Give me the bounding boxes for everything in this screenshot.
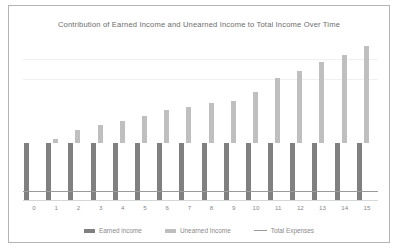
bar-group [356,39,378,201]
bar-group [311,39,333,201]
x-axis-tick-label: 11 [267,204,289,211]
bar-unearned-income [342,55,347,143]
bar-group [23,39,45,201]
bar-group [178,39,200,201]
bar-group [45,39,67,201]
legend-label: Unearned Income [180,227,231,234]
chart-legend: Earned incomeUnearned IncomeTotal Expens… [9,227,389,234]
bar-group [289,39,311,201]
bar-group [67,39,89,201]
plot-area [23,39,378,201]
legend-bar-swatch [84,229,95,233]
bar-unearned-income [186,107,191,143]
x-axis-line [23,200,378,201]
bar-unearned-income [364,46,369,143]
total-expenses-line [23,191,378,192]
bar-group [245,39,267,201]
bar-group [267,39,289,201]
bar-unearned-income [253,92,258,143]
x-axis-tick-label: 2 [67,204,89,211]
x-axis-tick-label: 6 [156,204,178,211]
x-axis-tick-label: 0 [23,204,45,211]
chart-title: Contribution of Earned Income and Unearn… [9,20,389,29]
x-axis-tick-label: 8 [201,204,223,211]
bar-group [223,39,245,201]
x-axis-tick-label: 9 [223,204,245,211]
legend-item[interactable]: Unearned Income [165,227,231,234]
bar-unearned-income [120,121,125,143]
bar-unearned-income [209,103,214,144]
bar-unearned-income [98,125,103,144]
legend-label: Earned income [99,227,142,234]
x-axis-tick-label: 3 [90,204,112,211]
bar-unearned-income [297,71,302,143]
bar-group [90,39,112,201]
legend-item[interactable]: Earned income [84,227,142,234]
bar-unearned-income [75,130,80,143]
x-axis-tick-label: 15 [356,204,378,211]
bar-group [112,39,134,201]
bar-unearned-income [275,78,280,143]
x-axis-tick-label: 13 [311,204,333,211]
x-axis-tick-labels: 0123456789101112131415 [23,204,378,216]
bar-group [134,39,156,201]
bar-group [334,39,356,201]
x-axis-tick-label: 7 [178,204,200,211]
bar-group [156,39,178,201]
legend-item[interactable]: Total Expenses [254,227,314,234]
x-axis-tick-label: 10 [245,204,267,211]
x-axis-tick-label: 14 [334,204,356,211]
chart-container: Contribution of Earned Income and Unearn… [8,5,390,243]
bar-unearned-income [53,139,58,144]
x-axis-tick-label: 12 [289,204,311,211]
legend-label: Total Expenses [271,227,314,234]
bar-unearned-income [142,116,147,143]
bar-unearned-income [231,101,236,143]
legend-bar-swatch [165,229,176,233]
bar-series-layer [23,39,378,201]
x-axis-tick-label: 4 [112,204,134,211]
legend-line-swatch [254,230,267,232]
x-axis-tick-label: 5 [134,204,156,211]
bar-unearned-income [319,62,324,143]
x-axis-tick-label: 1 [45,204,67,211]
bar-unearned-income [164,110,169,144]
bar-group [201,39,223,201]
